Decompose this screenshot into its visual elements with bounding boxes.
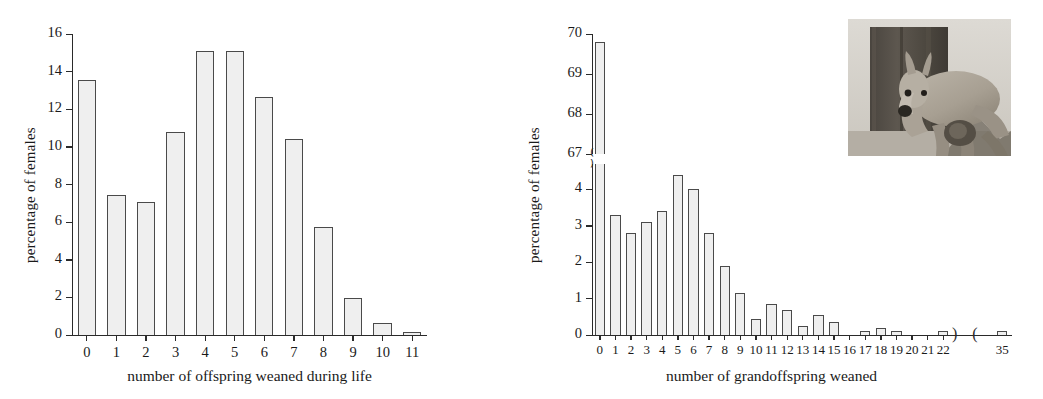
bar xyxy=(766,304,776,335)
y-tick-b-lower xyxy=(586,335,592,336)
bar xyxy=(137,202,155,335)
x-tick-a xyxy=(264,336,265,341)
y-tick-b-upper xyxy=(586,74,592,75)
y-tick-b-upper xyxy=(586,154,592,155)
x-tick-label-b: 22 xyxy=(927,342,959,358)
x-tick-label-b: 35 xyxy=(986,342,1018,358)
x-tick-a xyxy=(234,336,235,341)
y-tick-b-lower xyxy=(586,225,592,226)
bar xyxy=(876,328,886,335)
x-tick-label-a: 11 xyxy=(392,344,432,361)
bar xyxy=(829,322,839,335)
y-tick-a xyxy=(66,184,72,185)
bar xyxy=(196,51,214,335)
x-tick-a xyxy=(352,336,353,341)
bar xyxy=(798,326,808,335)
y-tick-b-lower xyxy=(586,298,592,299)
y-tick-label-b-lower: 1 xyxy=(542,289,582,306)
bar xyxy=(285,139,303,335)
y-tick-a xyxy=(66,222,72,223)
bar xyxy=(891,331,901,335)
plot-area-a: 024681012141601234567891011 xyxy=(72,34,427,335)
bar xyxy=(735,293,745,335)
x-tick-b xyxy=(740,336,741,340)
y-tick-b-upper xyxy=(586,114,592,115)
x-tick-b xyxy=(755,336,756,340)
x-tick-a xyxy=(116,336,117,341)
y-tick-label-a: 4 xyxy=(24,250,62,267)
y-tick-a xyxy=(66,146,72,147)
x-axis-line-a xyxy=(72,335,427,336)
bar xyxy=(657,211,667,335)
bar xyxy=(403,332,421,335)
chart-panel-grandoffspring: percentage of females ⌣⌢6768697001234012… xyxy=(500,0,1043,399)
y-tick-a xyxy=(66,335,72,336)
x-tick-b xyxy=(630,336,631,340)
bar xyxy=(595,42,605,154)
y-tick-label-a: 0 xyxy=(24,325,62,342)
x-tick-b xyxy=(771,336,772,340)
y-tick-label-a: 16 xyxy=(24,24,62,41)
bar xyxy=(373,323,391,335)
x-tick-b xyxy=(927,336,928,340)
x-tick-a xyxy=(382,336,383,341)
bar xyxy=(314,227,332,335)
y-axis-label-b: percentage of females xyxy=(526,127,543,263)
bar xyxy=(107,195,125,335)
bar xyxy=(344,298,362,335)
y-tick-label-b-lower: 0 xyxy=(542,325,582,342)
x-tick-a xyxy=(412,336,413,341)
x-tick-b xyxy=(880,336,881,340)
bar xyxy=(641,222,651,335)
x-tick-b xyxy=(662,336,663,340)
y-tick-b-upper xyxy=(586,34,592,35)
bar xyxy=(595,164,605,335)
y-tick-label-b-lower: 4 xyxy=(542,179,582,196)
y-axis-line-b-lower xyxy=(592,164,593,335)
y-tick-label-b-lower: 3 xyxy=(542,216,582,233)
x-tick-a xyxy=(86,336,87,341)
x-tick-b xyxy=(943,336,944,340)
y-tick-label-a: 8 xyxy=(24,175,62,192)
bar xyxy=(673,175,683,335)
bar xyxy=(610,215,620,335)
x-tick-a xyxy=(293,336,294,341)
bar xyxy=(782,310,792,335)
y-tick-label-a: 14 xyxy=(24,62,62,79)
y-tick-label-a: 2 xyxy=(24,287,62,304)
bar xyxy=(813,315,823,335)
x-tick-b xyxy=(724,336,725,340)
y-tick-a xyxy=(66,297,72,298)
x-tick-b xyxy=(599,336,600,340)
bar xyxy=(226,51,244,335)
bar xyxy=(997,331,1007,335)
x-axis-label-b: number of grandoffspring weaned xyxy=(552,367,991,385)
bar xyxy=(78,80,96,335)
y-tick-b-lower xyxy=(586,189,592,190)
x-axis-break-mark: ) xyxy=(952,326,957,342)
bar xyxy=(938,331,948,335)
x-tick-b xyxy=(802,336,803,340)
x-tick-a xyxy=(145,336,146,341)
bar xyxy=(166,132,184,335)
bar xyxy=(626,233,636,335)
y-tick-label-b-upper: 70 xyxy=(542,24,582,41)
x-tick-b xyxy=(693,336,694,340)
y-tick-label-a: 6 xyxy=(24,212,62,229)
x-tick-b xyxy=(865,336,866,340)
bar xyxy=(720,266,730,335)
x-tick-b xyxy=(646,336,647,340)
kangaroo-photo-inset xyxy=(848,19,1011,156)
y-tick-a xyxy=(66,34,72,35)
x-tick-b xyxy=(849,336,850,340)
x-tick-b xyxy=(818,336,819,340)
y-tick-b-lower xyxy=(586,262,592,263)
x-tick-b xyxy=(708,336,709,340)
chart-panel-offspring: percentage of females 024681012141601234… xyxy=(0,0,500,399)
x-tick-b xyxy=(677,336,678,340)
y-axis-line-b-upper xyxy=(592,34,593,154)
y-axis-line-a xyxy=(72,34,73,335)
y-tick-label-a: 12 xyxy=(24,99,62,116)
bar xyxy=(704,233,714,335)
x-axis-label-a: number of offspring weaned during life xyxy=(32,367,467,385)
